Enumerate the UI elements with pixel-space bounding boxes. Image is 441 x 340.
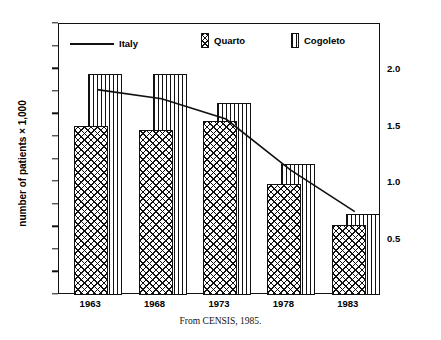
legend-label-cogoleto: Cogoleto <box>304 35 345 46</box>
y-right-tick-label-1: 1.0 <box>387 176 400 187</box>
vertical-lines-swatch <box>291 33 299 48</box>
y-right-tick-label-0-5: 0.5 <box>387 232 400 243</box>
bar-quarto-1978 <box>267 184 301 295</box>
x-tick-label-1973: 1973 <box>208 298 229 309</box>
legend-label-quarto: Quarto <box>214 35 245 46</box>
figure-caption: From CENSIS, 1985. <box>0 316 441 326</box>
x-tick-label-1978: 1978 <box>273 298 294 309</box>
x-tick-label-1983: 1983 <box>337 298 358 309</box>
x-tick-label-1968: 1968 <box>144 298 165 309</box>
y-axis-left: 1201101009080706050403020100 <box>0 0 58 340</box>
legend-label-italy: Italy <box>119 38 138 49</box>
plot-area <box>58 23 380 294</box>
legend-item-quarto: Quarto <box>201 33 245 48</box>
cross-hatch-swatch <box>201 33 209 48</box>
bar-quarto-1983 <box>332 225 366 295</box>
x-tick-label-1963: 1963 <box>80 298 101 309</box>
y-right-tick-label-1-5: 1.5 <box>387 119 400 130</box>
bar-quarto-1973 <box>203 121 237 295</box>
y-right-tick-label-2: 2.0 <box>387 63 400 74</box>
bar-quarto-1963 <box>74 126 108 295</box>
legend-item-italy: Italy <box>70 38 138 49</box>
bar-quarto-1968 <box>139 130 173 295</box>
figure-container: number of patients × 1,000 1201101009080… <box>0 0 441 340</box>
line-swatch <box>70 43 114 45</box>
chart-legend: Italy Quarto Cogoleto <box>58 36 380 58</box>
legend-item-cogoleto: Cogoleto <box>291 33 345 48</box>
